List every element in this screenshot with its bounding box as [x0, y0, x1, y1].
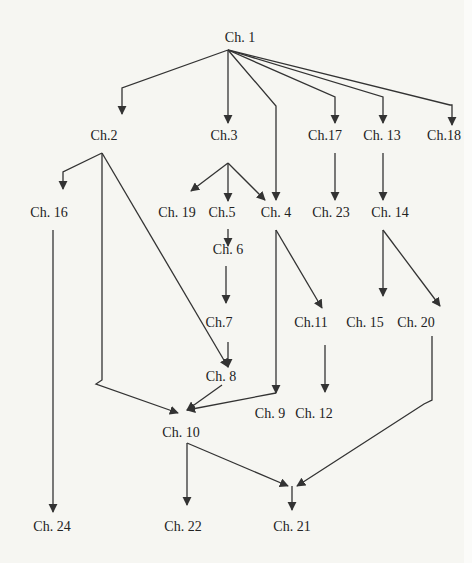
edges-layer — [0, 0, 472, 563]
edge-ch2-to-ch8 — [102, 153, 228, 367]
node-ch8: Ch. 8 — [206, 369, 236, 385]
edge-ch4-to-ch11 — [276, 230, 322, 308]
node-ch20: Ch. 20 — [397, 315, 434, 331]
edge-ch1-to-ch13 — [228, 50, 383, 123]
edge-ch14-to-ch20 — [383, 230, 440, 306]
node-ch9: Ch. 9 — [255, 406, 285, 422]
edge-ch1-to-ch4 — [228, 50, 276, 200]
edge-ch1-to-ch17 — [228, 50, 335, 123]
node-ch6: Ch. 6 — [213, 242, 243, 258]
node-ch22: Ch. 22 — [164, 519, 201, 535]
node-ch10: Ch. 10 — [162, 425, 199, 441]
edge-ch3-to-ch19 — [191, 163, 228, 191]
node-ch18: Ch.18 — [427, 128, 461, 144]
node-ch4: Ch. 4 — [261, 205, 291, 221]
node-ch21: Ch. 21 — [273, 519, 310, 535]
edge-ch1-to-ch2 — [122, 50, 228, 114]
node-ch7: Ch.7 — [206, 315, 233, 331]
edge-ch10-to-ch21 — [187, 443, 288, 486]
node-ch1: Ch. 1 — [225, 30, 255, 46]
edge-ch2-to-ch10 — [96, 153, 178, 413]
node-ch16: Ch. 16 — [30, 205, 67, 221]
node-ch24: Ch. 24 — [33, 519, 70, 535]
edge-ch3-to-ch4 — [228, 163, 265, 200]
node-ch5: Ch.5 — [209, 205, 236, 221]
node-ch2: Ch.2 — [91, 128, 118, 144]
node-ch3: Ch.3 — [211, 128, 238, 144]
node-ch23: Ch. 23 — [312, 205, 349, 221]
node-ch15: Ch. 15 — [346, 315, 383, 331]
node-ch17: Ch.17 — [308, 128, 342, 144]
node-ch11: Ch.11 — [294, 315, 327, 331]
edge-ch1-to-ch18 — [228, 50, 452, 125]
node-ch19: Ch. 19 — [158, 205, 195, 221]
node-ch14: Ch. 14 — [371, 205, 408, 221]
node-ch12: Ch. 12 — [295, 406, 332, 422]
edge-ch2-to-ch16 — [63, 153, 102, 189]
node-ch13: Ch. 13 — [363, 128, 400, 144]
